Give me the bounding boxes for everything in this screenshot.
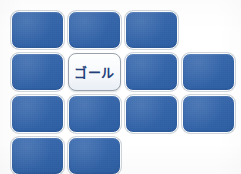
goal-tile[interactable]: ゴール: [68, 53, 121, 91]
tile[interactable]: [11, 95, 64, 133]
tile[interactable]: [125, 95, 178, 133]
tile[interactable]: [125, 53, 178, 91]
tile[interactable]: [125, 11, 178, 49]
tile[interactable]: [68, 95, 121, 133]
tile-grid-board: ゴール: [0, 0, 241, 174]
tile[interactable]: [11, 53, 64, 91]
tile[interactable]: [11, 137, 64, 174]
tile[interactable]: [182, 95, 235, 133]
tile[interactable]: [68, 137, 121, 174]
tile[interactable]: [68, 11, 121, 49]
goal-tile-label: ゴール: [74, 66, 115, 79]
tile[interactable]: [182, 53, 235, 91]
tile[interactable]: [11, 11, 64, 49]
